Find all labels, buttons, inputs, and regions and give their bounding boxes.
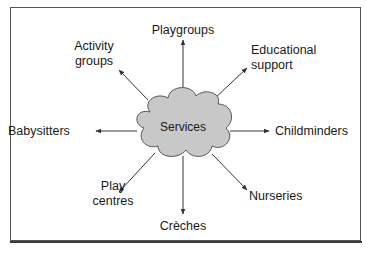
node-label-line: Activity — [74, 39, 114, 53]
arrow-activity-groups — [119, 70, 148, 100]
arrow-educational-support — [213, 68, 247, 100]
node-label-line: Childminders — [275, 124, 348, 138]
node-label-line: Educational — [251, 43, 316, 57]
node-playgroups: Playgroups — [152, 23, 215, 37]
arrow-nurseries — [212, 154, 247, 190]
node-babysitters: Babysitters — [8, 124, 70, 138]
node-label-line: support — [251, 58, 293, 72]
node-label-line: Play — [101, 179, 126, 193]
node-creches: Crèches — [160, 219, 207, 233]
node-label-line: Nurseries — [249, 189, 303, 203]
node-activity-groups: Activitygroups — [74, 39, 114, 68]
node-childminders: Childminders — [275, 124, 348, 138]
node-label-line: Playgroups — [152, 23, 215, 37]
node-label-line: centres — [93, 194, 134, 208]
node-label-line: Crèches — [160, 219, 207, 233]
center-label: Services — [160, 120, 206, 134]
node-label-line: groups — [75, 54, 113, 68]
node-nurseries: Nurseries — [249, 189, 303, 203]
services-diagram: Services PlaygroupsEducationalsupportChi… — [0, 0, 366, 255]
node-label-line: Babysitters — [8, 124, 70, 138]
node-educational-support: Educationalsupport — [251, 43, 316, 72]
